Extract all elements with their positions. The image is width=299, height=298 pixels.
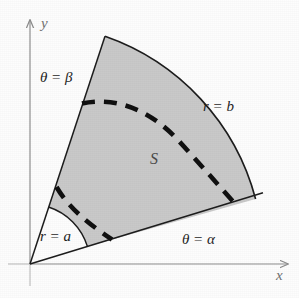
- region-fill: [49, 36, 256, 246]
- label-theta-equals-alpha: θ = α: [182, 231, 215, 248]
- y-axis-label: y: [41, 15, 48, 32]
- label-region-S: S: [150, 150, 158, 168]
- label-r-equals-b: r = b: [203, 98, 234, 115]
- label-r-equals-a: r = a: [40, 228, 71, 245]
- x-axis-label: x: [276, 267, 283, 284]
- shaded-region-S: [49, 36, 256, 246]
- label-theta-equals-beta: θ = β: [40, 69, 72, 86]
- figure-canvas: y x θ = β r = b r = a θ = α S: [0, 0, 299, 298]
- polar-region-diagram: [0, 0, 299, 298]
